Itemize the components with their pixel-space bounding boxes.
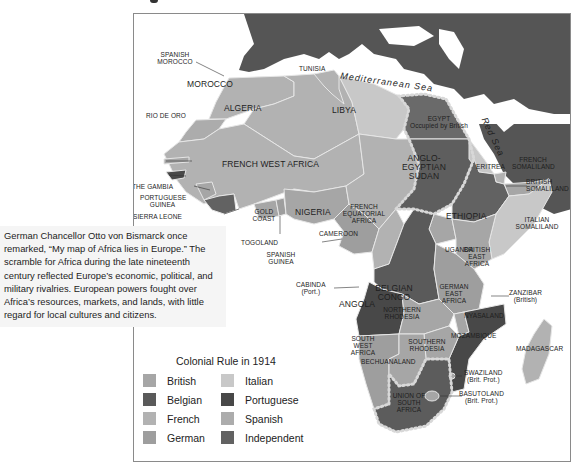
label-togoland: Togoland [241,240,278,247]
label-south-west-africa: South West Africa [341,336,385,356]
legend-label-british: British [167,375,196,387]
legend-item-belgian: Belgian [143,393,221,406]
label-sierra-leone: Sierra Leone [133,214,182,221]
map-legend: Colonial Rule in 1914 British Italian Be… [143,355,353,444]
label-basutoland-name: Basutoland [459,390,504,397]
legend-item-spanish: Spanish [221,412,331,425]
label-basutoland: Basutoland (Brit. Prot.) [459,391,504,405]
label-union-of-south-africa: Union of South Africa [387,393,431,413]
label-nigeria: Nigeria [295,208,331,217]
legend-title: Colonial Rule in 1914 [176,355,353,367]
label-cabinda-note: (Port.) [296,289,326,296]
legend-grid: British Italian Belgian Portuguese Frenc… [143,374,353,444]
map-caption: German Chancellor Otto von Bismarck once… [0,226,226,327]
legend-swatch-belgian [143,393,156,406]
label-zanzibar-note: (British) [509,297,542,304]
legend-item-british: British [143,374,221,387]
label-british-somaliland: British Somaliland [526,179,571,193]
label-cabinda: Cabinda (Port.) [296,282,326,296]
legend-item-german: German [143,431,221,444]
legend-label-belgian: Belgian [167,394,202,406]
legend-swatch-portuguese [221,393,234,406]
label-swaziland-note: (Brit. Prot.) [464,377,503,384]
legend-swatch-german [143,431,156,444]
label-zanzibar-name: Zanzibar [509,289,542,296]
label-belgian-congo: Belgian Congo [371,284,417,302]
label-egypt-name: Egypt [428,115,451,122]
label-cabinda-name: Cabinda [296,281,326,288]
label-tunisia: Tunisia [299,66,325,73]
legend-swatch-independent [221,431,234,444]
label-the-gambia: The Gambia [133,184,173,191]
legend-item-french: French [143,412,221,425]
label-portuguese-guinea: Portuguese Guinea [140,195,185,209]
label-ethiopia: Ethiopia [446,212,486,221]
label-egypt-note: Occupied by British [410,123,468,130]
label-madagascar: Madagascar [516,346,563,353]
label-swaziland-name: Swaziland [464,369,503,376]
label-swaziland: Swaziland (Brit. Prot.) [464,370,503,384]
label-spanish-guinea: Spanish Guinea [264,252,298,266]
legend-swatch-french [143,412,156,425]
label-rio-de-oro: Rio de Oro [146,113,186,120]
label-spanish-morocco: Spanish Morocco [150,52,200,66]
label-italian-somaliland: Italian Somaliland [514,217,560,231]
legend-item-independent: Independent [221,431,331,444]
label-cameroon: Cameroon [319,231,358,238]
label-nyasaland: Nyasaland [464,313,504,320]
label-egypt: Egypt Occupied by British [410,116,468,130]
legend-label-german: German [167,432,205,444]
legend-swatch-british [143,374,156,387]
label-angola: Angola [339,300,375,309]
label-anglo-egyptian-sudan: Anglo-Egyptian Sudan [402,154,446,181]
legend-swatch-italian [221,374,234,387]
label-libya: Libya [332,106,356,115]
legend-label-spanish: Spanish [245,413,283,425]
legend-item-portuguese: Portuguese [221,393,331,406]
legend-item-italian: Italian [221,374,331,387]
label-southern-rhodesia: Southern Rhodesia [408,339,446,353]
label-northern-rhodesia: Northern Rhodesia [382,307,422,321]
label-gold-coast: Gold Coast [252,209,276,223]
label-mozambique: Mozambique [451,333,496,340]
legend-label-independent: Independent [245,432,303,444]
label-basutoland-note: (Brit. Prot.) [459,398,504,405]
label-french-west-africa: French West Africa [222,160,319,169]
label-british-east-africa: British East Africa [460,247,494,267]
legend-swatch-spanish [221,412,234,425]
label-algeria: Algeria [224,104,262,113]
legend-label-french: French [167,413,200,425]
label-eritrea: Eritrea [476,164,505,171]
label-zanzibar: Zanzibar (British) [509,290,542,304]
label-french-somaliland: French Somaliland [512,157,554,171]
page-edge-mark [150,0,158,3]
label-french-equatorial-africa: French Equatorial Africa [342,204,386,224]
legend-label-italian: Italian [245,375,273,387]
legend-label-portuguese: Portuguese [245,394,299,406]
label-german-east-africa: German East Africa [436,284,472,304]
label-bechuanaland: Bechuanaland [361,359,416,366]
label-morocco: Morocco [187,80,233,89]
